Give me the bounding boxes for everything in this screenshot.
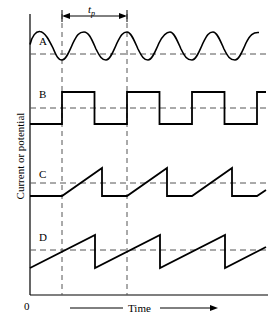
trace-label-d: D	[39, 231, 47, 243]
trace-label-a: A	[39, 35, 47, 47]
period-subscript: p	[91, 9, 95, 18]
trace-a-sine	[30, 31, 259, 60]
trace-d-sawtooth-ramp	[30, 235, 266, 268]
x-axis-title: Time	[128, 302, 151, 314]
waveform-plot	[0, 0, 277, 326]
y-axis-title: Current or potential	[14, 96, 26, 216]
period-symbol-label: tp	[88, 3, 95, 18]
waveform-figure: A B C D tp Current or potential Time 0	[0, 0, 277, 326]
trace-label-b: B	[39, 88, 47, 100]
origin-label: 0	[24, 300, 30, 312]
trace-label-c: C	[39, 168, 47, 180]
trace-c-sawtooth-baseline	[30, 168, 266, 196]
